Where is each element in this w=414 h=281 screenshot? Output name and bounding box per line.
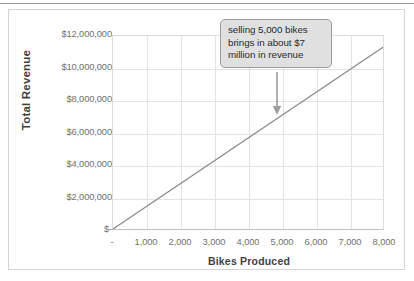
y-axis-tick-label: $8,000,000 bbox=[26, 94, 112, 104]
y-axis-tick-label: $10,000,000 bbox=[26, 62, 112, 72]
chart-container: Total Revenue $-$2,000,000$4,000,000$6,0… bbox=[8, 9, 405, 270]
annotation-callout: selling 5,000 bikes brings in about $7 m… bbox=[220, 19, 332, 68]
y-axis-tick-label: $2,000,000 bbox=[26, 192, 112, 202]
y-axis-tick-label: $12,000,000 bbox=[26, 29, 112, 39]
y-axis-tick-label: $4,000,000 bbox=[26, 159, 112, 169]
y-axis-tick-label: $- bbox=[26, 224, 112, 234]
annotation-arrow-icon bbox=[271, 72, 283, 116]
x-axis-tick-label: 8,000 bbox=[364, 237, 404, 247]
y-axis-tick-label: $6,000,000 bbox=[26, 127, 112, 137]
x-axis-title: Bikes Produced bbox=[112, 255, 386, 267]
top-divider bbox=[0, 3, 414, 4]
